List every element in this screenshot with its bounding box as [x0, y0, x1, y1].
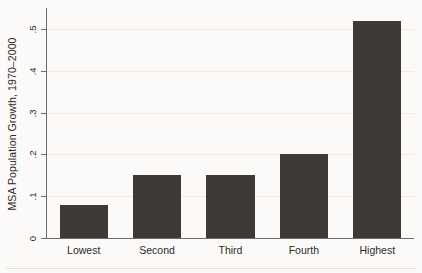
x-axis-category-label: Highest — [341, 243, 414, 257]
y-axis-tick-label: .5 — [26, 23, 40, 35]
x-axis-category-label: Lowest — [47, 243, 120, 257]
y-axis-title: MSA Population Growth, 1970–2000 — [0, 0, 24, 248]
x-axis-category-label: Second — [120, 243, 193, 257]
y-axis-title-text: MSA Population Growth, 1970–2000 — [6, 37, 18, 210]
bar — [60, 205, 108, 238]
x-axis-category-label: Fourth — [267, 243, 340, 257]
y-axis-tick-label: .1 — [26, 190, 40, 202]
y-axis-tick-label-text: .4 — [28, 67, 39, 75]
y-axis-tick-label: .3 — [26, 107, 40, 119]
scan-artifact-line — [6, 268, 416, 269]
bar — [280, 154, 328, 238]
y-axis-tick-label-text: .3 — [28, 109, 39, 117]
bar — [353, 21, 401, 238]
x-axis-line — [46, 238, 414, 239]
y-axis-tick-label: .2 — [26, 148, 40, 160]
bar — [133, 175, 181, 238]
y-axis-tick-label: .4 — [26, 65, 40, 77]
y-axis-tick-label-text: .2 — [28, 150, 39, 158]
chart-figure: MSA Population Growth, 1970–2000 0.1.2.3… — [0, 0, 422, 273]
y-axis-tick-label-text: .1 — [28, 192, 39, 200]
plot-area — [47, 8, 414, 238]
y-axis-tick-label-text: .5 — [28, 25, 39, 33]
y-axis-tick-label: 0 — [26, 232, 40, 244]
x-axis-category-label: Third — [194, 243, 267, 257]
y-axis-tick-label-text: 0 — [27, 235, 38, 240]
bar — [206, 175, 254, 238]
